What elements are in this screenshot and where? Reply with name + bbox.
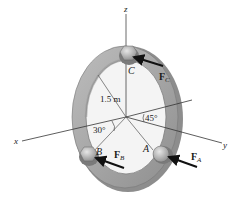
radius-dimension-label: 1.5 m (100, 94, 121, 104)
ring-force-diagram: z x y C B A FC FB FA 1.5 m 30° 45° (0, 0, 237, 201)
knob-a (153, 146, 173, 164)
angle-30-label: 30° (93, 125, 106, 135)
x-axis-label: x (13, 136, 18, 146)
point-a-label: A (142, 143, 150, 154)
force-label-fa: FA (191, 151, 202, 164)
force-label-fb-sub: B (120, 154, 125, 162)
point-b-label: B (96, 146, 102, 157)
angle-45-label: 45° (145, 113, 158, 123)
force-label-fa-sub: A (196, 156, 202, 164)
y-axis-label: y (222, 140, 227, 150)
z-axis-label: z (123, 4, 128, 14)
force-label-fc-sub: C (165, 76, 170, 84)
point-c-label: C (128, 65, 135, 76)
